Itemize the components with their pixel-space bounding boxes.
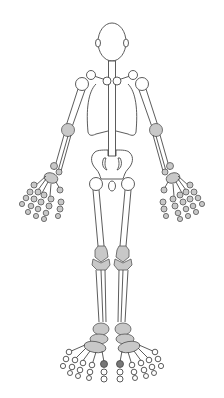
left-big-toe-joint	[101, 361, 108, 368]
left-arm	[54, 89, 85, 171]
left-hand	[19, 163, 64, 222]
femurs	[93, 190, 131, 246]
right-big-toe-joint	[117, 361, 124, 368]
head	[96, 23, 129, 61]
right-arm	[139, 89, 170, 171]
knees	[92, 246, 132, 270]
right-hand	[160, 163, 205, 222]
skeleton-diagram	[0, 0, 224, 398]
spine	[109, 61, 116, 165]
ankles	[83, 323, 141, 354]
shins	[96, 270, 128, 322]
